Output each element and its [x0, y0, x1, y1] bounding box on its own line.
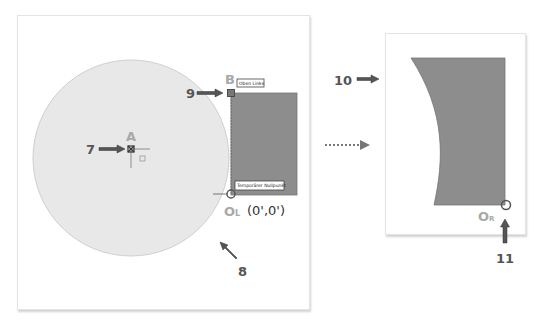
svg-text:Temporärer Nullpunkt: Temporärer Nullpunkt	[236, 183, 286, 188]
origin-coordinates: (0',0')	[247, 203, 285, 218]
arrow-up-icon	[501, 219, 510, 243]
origin-right-label: OR	[478, 209, 495, 224]
transition-arrow	[325, 140, 370, 150]
callout-8: 8	[220, 242, 247, 279]
rectangle-shape	[231, 93, 297, 195]
svg-text:11: 11	[496, 251, 514, 266]
svg-text:10: 10	[334, 73, 352, 88]
point-b-marker	[228, 90, 235, 97]
svg-text:8: 8	[238, 264, 247, 279]
arrow-right-icon	[360, 140, 370, 150]
diagram-canvas: A B Oben Links Temporärer Nullpunkt OL (…	[0, 0, 542, 326]
tag-top-left: Oben Links	[237, 79, 265, 87]
arrow-right-icon	[357, 75, 379, 83]
svg-text:Oben Links: Oben Links	[239, 81, 265, 86]
svg-text:9: 9	[186, 86, 195, 101]
origin-left-label: OL	[224, 204, 240, 219]
tag-temporary-origin: Temporärer Nullpunkt	[235, 181, 286, 190]
callout-10: 10	[334, 73, 379, 88]
point-b-label: B	[225, 72, 235, 87]
arrow-up-left-icon	[220, 242, 237, 259]
callout-11: 11	[496, 219, 514, 266]
svg-text:7: 7	[86, 142, 95, 157]
point-a-label: A	[126, 129, 136, 144]
result-shape	[411, 58, 505, 205]
